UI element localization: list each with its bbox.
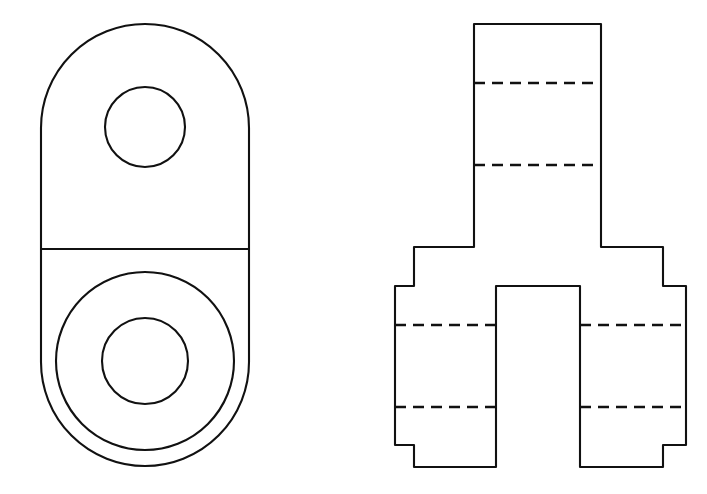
bracket-profile-outline <box>395 24 686 467</box>
right-front-view <box>395 24 686 467</box>
drawing-sheet <box>0 0 707 494</box>
technical-drawing-canvas <box>0 0 707 494</box>
lower-counterbore-circle <box>56 272 234 450</box>
obround-plate-outline <box>41 24 249 466</box>
left-end-view <box>41 24 249 466</box>
upper-bore-circle <box>105 87 185 167</box>
lower-bore-circle <box>102 318 188 404</box>
